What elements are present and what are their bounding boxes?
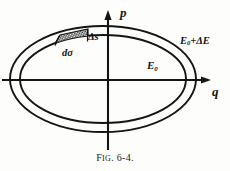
- figure-caption-number: . 6-4.: [111, 152, 134, 163]
- label-energy-outer-letter: E: [180, 35, 187, 46]
- phase-space-diagram: [0, 0, 230, 171]
- label-delta-s: Δs: [88, 32, 99, 43]
- axis-label-q: q: [212, 85, 219, 98]
- label-energy-inner-subscript: 0: [154, 65, 157, 72]
- figure-caption-initial-rest: IG: [102, 154, 111, 163]
- label-energy-inner: E0: [147, 60, 158, 72]
- figure-6-4: p q Δs dσ E0 E0+ΔE FIG. 6-4.: [0, 0, 230, 171]
- horizontal-axis: [2, 76, 211, 83]
- axis-label-p: p: [120, 6, 127, 19]
- label-energy-outer: E0+ΔE: [180, 36, 210, 47]
- figure-caption: FIG. 6-4.: [0, 152, 230, 163]
- figure-caption-text: FIG. 6-4.: [96, 152, 134, 163]
- label-d-sigma: dσ: [62, 48, 73, 59]
- label-energy-outer-delta: +ΔE: [190, 35, 210, 46]
